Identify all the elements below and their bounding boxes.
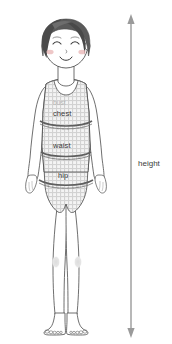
knee-shading-left [52,256,60,269]
cheek-right [78,50,85,55]
label-bust: bust [53,100,66,107]
label-waist: waist [53,142,71,150]
arrowhead-down [127,328,134,338]
label-chest: chest [53,110,71,118]
arrowhead-up [127,14,134,24]
knee-shading-right [74,256,82,269]
label-hip: hip [58,172,68,180]
cheek-left [46,50,53,55]
label-height: height [138,160,160,168]
height-arrow [127,14,134,338]
feet [44,313,88,335]
neck [58,66,74,86]
body-measurement-illustration [0,0,172,344]
